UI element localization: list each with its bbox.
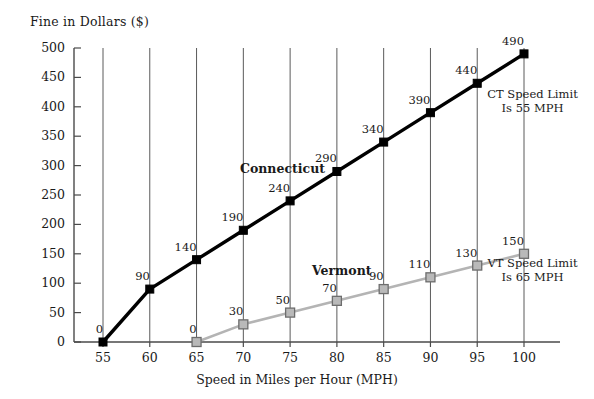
- marker-vermont-80: [332, 296, 341, 305]
- marker-connecticut-65: [193, 256, 201, 264]
- marker-connecticut-90: [426, 109, 434, 117]
- x-tick-label-70: 70: [223, 350, 263, 365]
- value-label-connecticut-75: 240: [256, 181, 290, 195]
- x-tick-label-100: 100: [504, 350, 544, 365]
- ct-annotation-line1: CT Speed Limit: [480, 88, 585, 102]
- x-tick-label-90: 90: [410, 350, 450, 365]
- value-label-vermont-90: 110: [396, 257, 430, 271]
- x-tick-label-65: 65: [177, 350, 217, 365]
- value-label-connecticut-60: 90: [116, 269, 150, 283]
- series-label-connecticut: Connecticut: [240, 161, 325, 176]
- marker-vermont-90: [426, 273, 435, 282]
- y-tick-label-450: 450: [25, 69, 65, 84]
- marker-vermont-65: [192, 338, 201, 347]
- y-tick-label-400: 400: [25, 99, 65, 114]
- x-tick-label-55: 55: [83, 350, 123, 365]
- value-label-connecticut-90: 390: [396, 93, 430, 107]
- marker-connecticut-95: [473, 79, 481, 87]
- value-label-connecticut-85: 340: [350, 122, 384, 136]
- y-tick-label-500: 500: [25, 40, 65, 55]
- marker-vermont-75: [286, 308, 295, 317]
- marker-connecticut-75: [286, 197, 294, 205]
- value-label-connecticut-55: 0: [69, 322, 103, 336]
- value-label-vermont-70: 30: [209, 304, 243, 318]
- value-label-connecticut-95: 440: [443, 63, 477, 77]
- marker-connecticut-85: [380, 138, 388, 146]
- marker-connecticut-55: [99, 338, 107, 346]
- fine-vs-speed-chart: Fine in Dollars ($) Speed in Miles per H…: [0, 0, 594, 399]
- ct-annotation-line2: Is 55 MPH: [480, 102, 585, 116]
- x-tick-label-95: 95: [457, 350, 497, 365]
- value-label-connecticut-65: 140: [163, 240, 197, 254]
- y-tick-label-150: 150: [25, 246, 65, 261]
- x-tick-label-60: 60: [130, 350, 170, 365]
- vt-annotation-line1: VT Speed Limit: [480, 257, 585, 271]
- x-tick-label-85: 85: [364, 350, 404, 365]
- x-tick-label-75: 75: [270, 350, 310, 365]
- value-label-vermont-100: 150: [490, 234, 524, 248]
- series-label-vermont: Vermont: [312, 263, 372, 278]
- marker-vermont-85: [379, 285, 388, 294]
- y-tick-label-50: 50: [25, 305, 65, 320]
- marker-connecticut-80: [333, 167, 341, 175]
- marker-connecticut-100: [520, 50, 528, 58]
- x-tick-label-80: 80: [317, 350, 357, 365]
- marker-connecticut-60: [146, 285, 154, 293]
- value-label-vermont-75: 50: [256, 293, 290, 307]
- y-tick-label-350: 350: [25, 128, 65, 143]
- marker-vermont-70: [239, 320, 248, 329]
- vt-annotation-line2: Is 65 MPH: [480, 271, 585, 285]
- y-tick-label-0: 0: [25, 334, 65, 349]
- value-label-vermont-65: 0: [163, 322, 197, 336]
- plot-area: [0, 0, 594, 399]
- y-tick-label-300: 300: [25, 158, 65, 173]
- value-label-vermont-95: 130: [443, 246, 477, 260]
- y-tick-label-250: 250: [25, 187, 65, 202]
- y-tick-label-200: 200: [25, 216, 65, 231]
- y-tick-label-100: 100: [25, 275, 65, 290]
- value-label-connecticut-70: 190: [209, 210, 243, 224]
- value-label-vermont-80: 70: [303, 281, 337, 295]
- series-line-connecticut: [103, 54, 524, 342]
- marker-connecticut-70: [239, 226, 247, 234]
- value-label-connecticut-100: 490: [490, 34, 524, 48]
